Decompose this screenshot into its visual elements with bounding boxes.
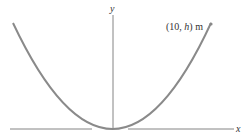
- y-axis-label: y: [109, 3, 115, 14]
- x-axis-label: x: [235, 123, 241, 134]
- point-marker: [209, 22, 212, 25]
- parabola-diagram: y x (10, h) m: [0, 0, 243, 138]
- point-label: (10, h) m: [166, 21, 203, 33]
- parabola-curve: [13, 23, 211, 129]
